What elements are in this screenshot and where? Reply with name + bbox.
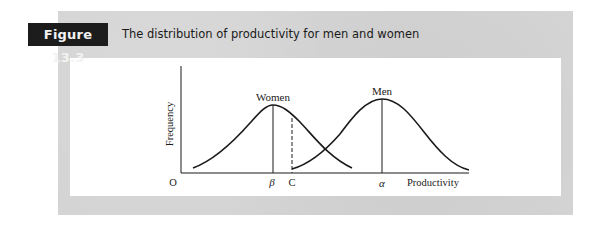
- men-distribution-curve: [292, 99, 469, 170]
- cutoff-c-label: C: [288, 177, 295, 188]
- distribution-chart: Women Men O β C α Productivity Frequency: [0, 0, 600, 226]
- x-axis-title: Productivity: [407, 177, 460, 188]
- y-axis-title: Frequency: [164, 101, 175, 146]
- men-label: Men: [372, 85, 393, 97]
- beta-label: β: [268, 176, 275, 188]
- women-label: Women: [256, 91, 290, 103]
- alpha-label: α: [379, 177, 385, 189]
- origin-label: O: [169, 177, 177, 188]
